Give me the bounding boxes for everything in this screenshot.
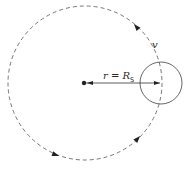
- orbit-arrow-bottom-left-icon: [52, 151, 60, 158]
- radius-arrowhead-right-icon: [154, 81, 160, 85]
- center-point: [82, 81, 86, 85]
- velocity-label: v: [152, 39, 158, 50]
- radius-label: r = RS: [103, 70, 134, 84]
- radius-arrowhead-left-icon: [87, 81, 93, 85]
- orbit-diagram: r = RS v: [0, 0, 188, 170]
- orbit-arrow-top-right-icon: [132, 22, 140, 31]
